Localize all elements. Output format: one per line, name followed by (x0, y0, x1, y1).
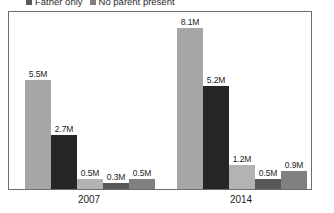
bar-2014-series-4 (255, 179, 281, 189)
bar-value-label-2014-series-3: 1.2M (223, 155, 261, 164)
bar-2007-series-4 (103, 183, 129, 189)
bars-layer: 5.5M2.7M0.5M0.3M0.5M8.1M5.2M1.2M0.5M0.9M (9, 12, 311, 189)
bar-value-label-2014-series-2: 5.2M (197, 76, 235, 85)
legend-label-no-parent-present: No parent present (99, 0, 175, 7)
chart-legend: Father only No parent present (0, 0, 334, 9)
bar-2007-series-1 (25, 80, 51, 189)
plot-area: 5.5M2.7M0.5M0.3M0.5M8.1M5.2M1.2M0.5M0.9M (8, 11, 312, 190)
legend-swatch-father-only (26, 0, 32, 5)
bar-value-label-2007-series-2: 2.7M (45, 125, 83, 134)
x-axis-label-2007: 2007 (49, 194, 129, 206)
bar-2014-series-5 (281, 171, 307, 189)
legend-item-father-only[interactable]: Father only (26, 0, 83, 7)
legend-item-no-parent-present[interactable]: No parent present (90, 0, 175, 7)
bar-value-label-2014-series-1: 8.1M (171, 18, 209, 27)
bar-2007-series-2 (51, 135, 77, 189)
legend-label-father-only: Father only (35, 0, 83, 7)
bar-2007-series-5 (129, 179, 155, 189)
bar-2014-series-2 (203, 86, 229, 189)
bar-chart: Father only No parent present 5.5M2.7M0.… (0, 0, 334, 213)
bar-value-label-2014-series-5: 0.9M (275, 161, 313, 170)
x-axis-label-2014: 2014 (201, 194, 281, 206)
bar-value-label-2007-series-1: 5.5M (19, 70, 57, 79)
legend-swatch-no-parent-present (90, 0, 96, 5)
bar-2014-series-1 (177, 28, 203, 189)
bar-value-label-2007-series-5: 0.5M (123, 169, 161, 178)
